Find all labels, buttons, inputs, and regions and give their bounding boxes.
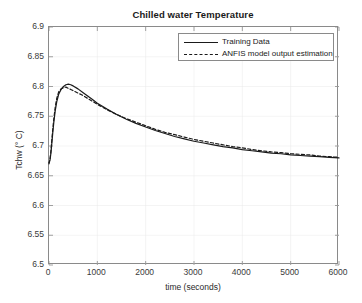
plot-area: [48, 26, 338, 264]
legend-line-solid-icon: [184, 37, 218, 47]
x-tick-label: 5000: [267, 267, 313, 277]
legend-line-dashed-icon: [184, 49, 218, 59]
y-tick-label: 6.65: [4, 170, 44, 180]
y-axis-label: Tchw (° C): [14, 100, 24, 200]
y-tick-label: 6.8: [4, 81, 44, 91]
y-tick-label: 6.7: [4, 140, 44, 150]
x-axis-label: time (seconds): [48, 282, 338, 292]
y-tick-label: 6.9: [4, 21, 44, 31]
legend-entry-anfis-estimation: ANFIS model output estimation: [179, 47, 333, 60]
y-tick-label: 6.85: [4, 51, 44, 61]
x-tick-label: 3000: [170, 267, 216, 277]
x-tick-label: 6000: [315, 267, 361, 277]
y-tick-label: 6.75: [4, 110, 44, 120]
x-tick-label: 2000: [122, 267, 168, 277]
chart-legend: Training Data ANFIS model output estimat…: [178, 33, 334, 61]
y-tick-label: 6.6: [4, 200, 44, 210]
legend-label-anfis-estimation: ANFIS model output estimation: [222, 49, 333, 58]
y-tick-label: 6.55: [4, 229, 44, 239]
plot-canvas: [49, 27, 339, 265]
legend-label-training-data: Training Data: [222, 37, 270, 46]
chart-figure: Chilled water Temperature 6.56.556.66.65…: [0, 0, 362, 303]
chart-title: Chilled water Temperature: [48, 9, 338, 20]
x-tick-label: 0: [25, 267, 71, 277]
x-tick-label: 1000: [73, 267, 119, 277]
x-tick-label: 4000: [218, 267, 264, 277]
